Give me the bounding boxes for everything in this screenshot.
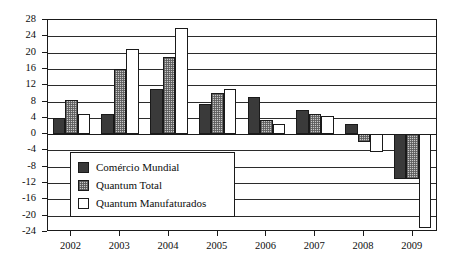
y-axis-tick-label: -20 — [8, 210, 36, 221]
y-axis-tick-label: 0 — [8, 128, 36, 139]
bar-2006-series0 — [248, 97, 261, 134]
y-axis-tick-label: -24 — [8, 226, 36, 237]
bar-group-2009 — [394, 20, 432, 230]
y-axis-tick-label: 28 — [8, 14, 36, 25]
y-axis-tick-label: -8 — [8, 161, 36, 172]
x-axis-tick — [119, 231, 120, 236]
x-axis-tick-label-2003: 2003 — [99, 241, 139, 252]
y-axis-tick-label: 24 — [8, 30, 36, 41]
y-axis-tick — [42, 231, 47, 232]
bar-group-2007 — [296, 20, 334, 230]
y-axis-tick-label: -12 — [8, 177, 36, 188]
x-axis-tick — [265, 231, 266, 236]
bar-2009-series2 — [419, 134, 432, 228]
legend-label-quantum-manufaturados: Quantum Manufaturados — [96, 198, 206, 209]
bar-2008-series1 — [358, 134, 371, 142]
legend-item: Quantum Manufaturados — [78, 194, 228, 212]
bar-2009-series0 — [394, 134, 407, 179]
bar-2007-series0 — [296, 110, 309, 134]
x-axis-tick-label-2004: 2004 — [148, 241, 188, 252]
y-axis-tick-label: -16 — [8, 193, 36, 204]
bar-2006-series1 — [260, 120, 273, 134]
bar-2004-series1 — [163, 57, 176, 134]
x-axis-tick — [314, 231, 315, 236]
bar-chart: 2824201612840-4-8-12-16-20-24 2002200320… — [0, 0, 457, 267]
x-axis-tick — [70, 231, 71, 236]
bar-2005-series1 — [211, 93, 224, 134]
y-axis-tick-label: 12 — [8, 79, 36, 90]
y-axis-tick-label: 4 — [8, 112, 36, 123]
x-axis-tick-label-2005: 2005 — [197, 241, 237, 252]
x-axis-tick — [412, 231, 413, 236]
y-axis-tick-label: 16 — [8, 63, 36, 74]
x-axis-tick-label-2008: 2008 — [343, 241, 383, 252]
x-axis-tick-label-2006: 2006 — [245, 241, 285, 252]
bar-2005-series2 — [224, 89, 237, 134]
legend-label-quantum-total: Quantum Total — [96, 180, 162, 191]
chart-legend: Comércio Mundial Quantum Total Quantum M… — [70, 152, 235, 217]
x-axis-tick-label-2009: 2009 — [392, 241, 432, 252]
y-axis-tick-label: -4 — [8, 144, 36, 155]
x-axis-tick-label-2002: 2002 — [50, 241, 90, 252]
bar-group-2008 — [345, 20, 383, 230]
legend-label-comercio-mundial: Comércio Mundial — [96, 162, 179, 173]
x-axis-tick — [217, 231, 218, 236]
bar-2006-series2 — [273, 124, 286, 134]
bar-2002-series0 — [53, 118, 66, 134]
bar-2007-series2 — [321, 116, 334, 134]
bar-2002-series1 — [65, 100, 78, 135]
x-axis-tick-label-2007: 2007 — [294, 241, 334, 252]
bar-2004-series2 — [175, 28, 188, 134]
x-axis-tick — [168, 231, 169, 236]
bar-2008-series2 — [370, 134, 383, 152]
bar-2009-series1 — [406, 134, 419, 179]
x-axis-tick — [363, 231, 364, 236]
bar-2007-series1 — [309, 114, 322, 134]
bar-2008-series0 — [345, 124, 358, 134]
bar-2002-series2 — [78, 114, 91, 134]
legend-swatch-comercio-mundial — [78, 162, 89, 173]
bar-2003-series0 — [101, 114, 114, 134]
bar-2005-series0 — [199, 104, 212, 135]
legend-swatch-quantum-total — [78, 180, 89, 191]
bar-2004-series0 — [150, 89, 163, 134]
y-axis-tick-label: 8 — [8, 96, 36, 107]
legend-item: Comércio Mundial — [78, 158, 228, 176]
bar-2003-series1 — [114, 69, 127, 134]
legend-swatch-quantum-manufaturados — [78, 198, 89, 209]
y-axis-tick-label: 20 — [8, 47, 36, 58]
legend-item: Quantum Total — [78, 176, 228, 194]
bar-2003-series2 — [126, 49, 139, 135]
bar-group-2006 — [248, 20, 286, 230]
